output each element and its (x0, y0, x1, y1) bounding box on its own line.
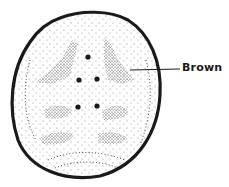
specimen-diagram (0, 0, 229, 187)
label-brown: Brown (182, 61, 222, 74)
